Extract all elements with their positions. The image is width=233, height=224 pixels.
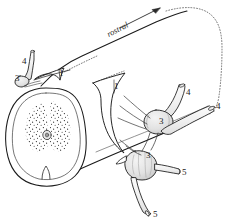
label-4-left: 4 (22, 57, 27, 66)
spinal-nerve-descending (131, 178, 151, 214)
label-3-upper-right: 3 (159, 117, 164, 126)
label-3-lower: 3 (146, 151, 151, 160)
ganglion-link (142, 133, 158, 151)
label-1-left: 1 (59, 69, 64, 78)
label-5-descending: 5 (153, 210, 158, 219)
nerve-root-cut-left-lumen (31, 50, 35, 52)
dura-flap-left-lower-edge (34, 70, 70, 80)
label-4-upper-right: 4 (186, 88, 191, 97)
dura-flap-right (93, 73, 125, 153)
label-1-right: 1 (114, 82, 119, 91)
spinal-nerve-lateral (155, 164, 180, 174)
central-canal (43, 130, 51, 139)
label-3-left: 3 (15, 74, 20, 83)
label-4-far-right: 4 (216, 102, 221, 111)
anatomical-figure-spinal-cord: rostral 1 1 3 3 3 4 4 4 5 5 (0, 0, 233, 224)
spinal-nerve-descending-lumen (145, 210, 151, 217)
label-5-lateral: 5 (182, 168, 187, 177)
